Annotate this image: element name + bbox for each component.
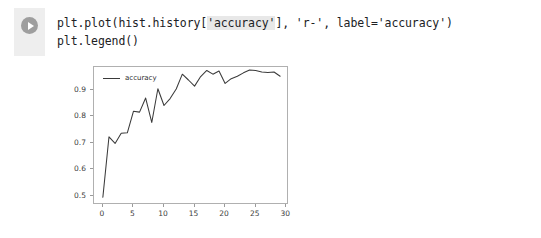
y-tick-mark xyxy=(90,142,93,143)
y-tick-mark xyxy=(90,89,93,90)
x-tick-mark xyxy=(132,204,133,207)
series-accuracy-line xyxy=(103,70,280,197)
y-tick-label: 0.8 xyxy=(64,111,86,120)
code-line-1: plt.plot(hist.history['accuracy'], 'r-',… xyxy=(57,14,525,32)
code-editor[interactable]: plt.plot(hist.history['accuracy'], 'r-',… xyxy=(45,8,525,50)
x-tick-mark xyxy=(285,204,286,207)
x-tick-label: 25 xyxy=(245,209,265,218)
x-tick-mark xyxy=(224,204,225,207)
y-tick-label: 0.9 xyxy=(64,84,86,93)
y-tick-mark xyxy=(90,168,93,169)
x-tick-label: 20 xyxy=(214,209,234,218)
y-tick-mark xyxy=(90,115,93,116)
cell-output: accuracy 0.50.60.70.80.9 051015202530 xyxy=(14,58,525,234)
code-text: plt.legend() xyxy=(57,34,139,48)
legend-label-accuracy: accuracy xyxy=(125,74,157,82)
x-tick-mark xyxy=(163,204,164,207)
plot-axes xyxy=(93,66,288,204)
y-tick-label: 0.6 xyxy=(64,164,86,173)
x-tick-mark xyxy=(255,204,256,207)
x-tick-label: 0 xyxy=(92,209,112,218)
x-tick-label: 15 xyxy=(184,209,204,218)
legend-line-swatch xyxy=(103,78,120,79)
chart-legend: accuracy xyxy=(100,71,160,85)
code-string-literal: 'accuracy' xyxy=(207,16,275,30)
code-text: ], 'r-', label='accuracy') xyxy=(275,16,452,30)
play-triangle xyxy=(28,22,34,30)
play-icon[interactable] xyxy=(21,17,38,34)
notebook-cell: plt.plot(hist.history['accuracy'], 'r-',… xyxy=(0,0,541,238)
x-tick-label: 30 xyxy=(275,209,295,218)
run-gutter xyxy=(14,8,45,56)
accuracy-line-chart xyxy=(94,67,289,205)
x-tick-mark xyxy=(102,204,103,207)
code-line-2: plt.legend() xyxy=(57,32,525,50)
matplotlib-figure: accuracy 0.50.60.70.80.9 051015202530 xyxy=(36,60,306,228)
x-tick-label: 10 xyxy=(153,209,173,218)
x-tick-label: 5 xyxy=(122,209,142,218)
y-tick-mark xyxy=(90,195,93,196)
code-cell: plt.plot(hist.history['accuracy'], 'r-',… xyxy=(14,8,525,56)
y-tick-label: 0.7 xyxy=(64,137,86,146)
x-tick-mark xyxy=(194,204,195,207)
code-text: plt.plot(hist.history[ xyxy=(57,16,207,30)
y-tick-label: 0.5 xyxy=(64,190,86,199)
